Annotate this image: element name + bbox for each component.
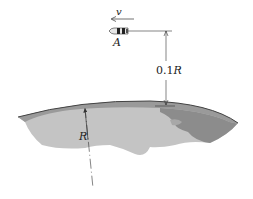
velocity-label: v xyxy=(116,6,122,17)
velocity-arrow xyxy=(111,17,134,22)
satellite-icon xyxy=(109,28,128,34)
altitude-label: 0.1R xyxy=(156,64,182,77)
object-label: A xyxy=(112,36,121,49)
diagram-canvas: R v A 0.1R xyxy=(0,0,253,199)
earth-surface xyxy=(18,101,238,155)
radius-label: R xyxy=(78,130,87,143)
